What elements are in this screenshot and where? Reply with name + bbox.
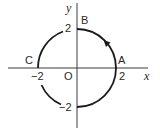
tick-label-y-pos: 2 [65, 23, 71, 34]
point-label-a: A [118, 55, 125, 66]
origin-label: O [64, 71, 73, 82]
tick-label-x-pos: 2 [119, 71, 125, 82]
circle-arc-upper-left [38, 32, 63, 69]
y-axis-label: y [66, 2, 71, 14]
point-label-b: B [81, 15, 88, 26]
tick-label-x-neg: −2 [31, 71, 44, 82]
point-label-c: C [25, 55, 33, 66]
tick-label-y-neg: −2 [59, 102, 72, 113]
x-axis-label: x [144, 70, 149, 82]
diagram-canvas [0, 0, 160, 133]
circle-diagram: y x O B A C 2 2 −2 −2 [0, 0, 160, 133]
